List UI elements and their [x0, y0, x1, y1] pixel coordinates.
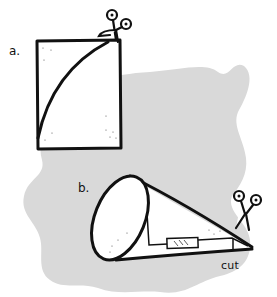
panel-a-label: a.: [9, 45, 20, 57]
tape-strip: [167, 237, 198, 248]
illustration: a. b. cut: [0, 0, 277, 297]
cut-label: cut: [221, 260, 239, 271]
panel-b-label: b.: [78, 182, 89, 194]
paper-rectangle: [37, 40, 121, 149]
scissors-icon-top: [99, 10, 131, 42]
scissors-icon-tip: [234, 191, 261, 230]
